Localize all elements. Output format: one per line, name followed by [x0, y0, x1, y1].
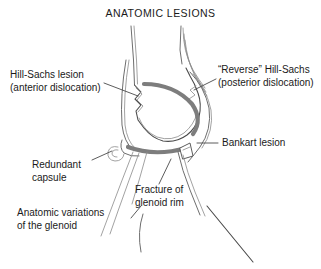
- label-hill-sachs: Hill-Sachs lesion (anterior dislocation): [10, 69, 101, 93]
- humeral-neck-striation-1: [183, 28, 205, 88]
- humeral-shaft-inferior: [207, 206, 253, 262]
- humeral-head-inner-contour: [139, 113, 197, 139]
- label-reverse-hill-sachs: “Reverse” Hill-Sachs (posterior dislocat…: [218, 64, 314, 88]
- humeral-shaft-left-cortex: [131, 26, 135, 85]
- label-anatomic-variations-line1: Anatomic variations: [17, 207, 104, 218]
- label-anatomic-variations-line2: of the glenoid: [17, 220, 77, 231]
- glenoid-rim-fracture-fragment: [180, 143, 193, 159]
- hill-sachs-notch-detail: [136, 88, 143, 112]
- glenoid-variation-outline: [139, 214, 143, 252]
- label-fracture-glenoid-rim: Fracture of glenoid rim: [135, 184, 184, 208]
- label-redundant-capsule: Redundant capsule: [32, 159, 81, 183]
- label-anatomic-variations: Anatomic variations of the glenoid: [17, 207, 104, 231]
- anterior-capsule-inner: [125, 60, 136, 148]
- anatomy-illustration: ANATOMIC LESIONS: [0, 0, 321, 269]
- leader-hill-sachs: [104, 83, 138, 96]
- label-bankart: Bankart lesion: [222, 137, 285, 148]
- label-reverse-hill-sachs-line2: (posterior dislocation): [218, 77, 314, 88]
- leader-redundant-capsule: [92, 151, 112, 160]
- anatomic-lesions-figure: ANATOMIC LESIONS: [0, 0, 321, 269]
- label-fracture-glenoid-rim-line2: glenoid rim: [135, 197, 184, 208]
- humeral-neck-striation-2: [184, 34, 206, 92]
- label-redundant-capsule-line1: Redundant: [32, 159, 81, 170]
- redundant-capsule-strand-1: [101, 152, 133, 236]
- humerus-group: [122, 26, 212, 162]
- label-bankart-line1: Bankart lesion: [222, 137, 285, 148]
- scapular-neck-right-inner: [183, 155, 205, 216]
- humeral-articular-cartilage-arc: [144, 84, 198, 134]
- humeral-shaft-right-cortex: [180, 26, 182, 64]
- label-reverse-hill-sachs-line1: “Reverse” Hill-Sachs: [218, 64, 310, 75]
- label-hill-sachs-line1: Hill-Sachs lesion: [10, 69, 84, 80]
- glenoid-articular-arc: [128, 147, 186, 152]
- figure-title: ANATOMIC LESIONS: [105, 7, 215, 19]
- redundant-capsule-pouch-inner: [112, 150, 118, 157]
- label-redundant-capsule-line2: capsule: [32, 172, 67, 183]
- label-hill-sachs-line2: (anterior dislocation): [10, 82, 101, 93]
- leader-fracture-glenoid-rim: [159, 159, 171, 184]
- label-fracture-glenoid-rim-line1: Fracture of: [135, 184, 184, 195]
